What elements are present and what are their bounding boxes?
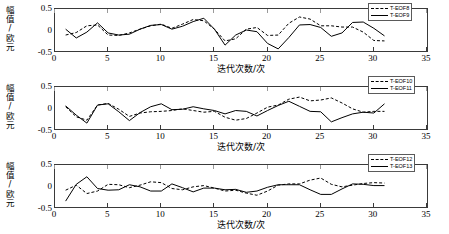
y-axis-label-char: 元 xyxy=(2,43,18,52)
y-tick-label: 0 xyxy=(26,181,52,191)
x-tick-label: 5 xyxy=(95,53,119,63)
legend-item: T-EOF12 xyxy=(371,156,412,163)
x-tick-mark-top xyxy=(426,9,427,13)
y-axis-label-panel-2: 幅 值 / 欧 元 xyxy=(2,84,18,130)
x-tick-mark xyxy=(107,47,108,51)
x-tick-label: 30 xyxy=(361,131,385,141)
x-tick-mark xyxy=(373,47,374,51)
x-tick-mark xyxy=(160,203,161,207)
x-tick-mark-top xyxy=(213,165,214,169)
chart-panel-3: 幅 值 / 欧 元 0.5 0 -0.5 迭代次数/次 T-EOF12 T-EO… xyxy=(0,156,449,234)
legend-item: T-EOF8 xyxy=(371,5,409,12)
series-line-t-eof11 xyxy=(66,101,385,123)
x-tick-label: 5 xyxy=(95,209,119,219)
x-tick-label: 10 xyxy=(148,131,172,141)
legend-panel-1: T-EOF8 T-EOF9 xyxy=(368,3,412,21)
multi-panel-line-chart: 幅 值 / 欧 元 0.5 0 -0.5 迭代次数/次 T-EOF8 T-EOF… xyxy=(0,0,449,234)
x-tick-mark-top xyxy=(107,165,108,169)
legend-item: T-EOF10 xyxy=(371,78,412,85)
x-tick-mark xyxy=(54,203,55,207)
legend-line-dashed-icon xyxy=(371,157,388,163)
x-tick-mark-top xyxy=(320,9,321,13)
x-tick-label: 35 xyxy=(414,131,438,141)
x-axis-label-panel-2: 迭代次数/次 xyxy=(54,140,428,153)
x-tick-label: 20 xyxy=(255,209,279,219)
series-line-t-eof9 xyxy=(66,18,385,49)
x-tick-label: 20 xyxy=(255,53,279,63)
y-tick-label: 0.5 xyxy=(26,81,52,91)
y-tick-labels-panel-2: 0.5 0 -0.5 xyxy=(22,86,52,130)
x-tick-mark xyxy=(426,203,427,207)
x-tick-mark xyxy=(320,125,321,129)
x-tick-label: 0 xyxy=(42,53,66,63)
legend-line-solid-icon xyxy=(371,164,388,170)
x-axis-label-panel-3: 迭代次数/次 xyxy=(54,218,428,231)
x-tick-label: 20 xyxy=(255,131,279,141)
x-tick-mark xyxy=(426,47,427,51)
x-tick-mark xyxy=(320,47,321,51)
x-tick-mark-top xyxy=(320,165,321,169)
x-tick-label: 25 xyxy=(308,209,332,219)
y-tick-label: 0 xyxy=(26,103,52,113)
x-tick-mark xyxy=(267,47,268,51)
x-tick-label: 25 xyxy=(308,53,332,63)
x-tick-mark xyxy=(160,47,161,51)
x-tick-mark xyxy=(213,203,214,207)
x-tick-mark-top xyxy=(54,165,55,169)
x-tick-mark-top xyxy=(267,165,268,169)
x-tick-label: 25 xyxy=(308,131,332,141)
x-tick-label: 35 xyxy=(414,209,438,219)
legend-label: T-EOF12 xyxy=(390,156,412,163)
legend-item: T-EOF11 xyxy=(371,85,412,92)
legend-panel-2: T-EOF10 T-EOF11 xyxy=(368,76,415,94)
x-tick-mark-top xyxy=(426,165,427,169)
x-tick-label: 15 xyxy=(201,131,225,141)
legend-label: T-EOF9 xyxy=(390,12,409,19)
x-tick-mark-top xyxy=(320,87,321,91)
legend-line-solid-icon xyxy=(371,13,388,19)
x-tick-label: 0 xyxy=(42,131,66,141)
x-tick-mark xyxy=(373,125,374,129)
x-tick-mark-top xyxy=(54,87,55,91)
series-group-panel-3 xyxy=(66,177,385,201)
x-tick-mark-top xyxy=(160,165,161,169)
y-axis-label-panel-3: 幅 值 / 欧 元 xyxy=(2,162,18,208)
x-axis-label-panel-1: 迭代次数/次 xyxy=(54,62,428,75)
x-tick-mark xyxy=(267,203,268,207)
legend-item: T-EOF9 xyxy=(371,12,409,19)
x-tick-mark xyxy=(160,125,161,129)
x-tick-mark xyxy=(373,203,374,207)
x-tick-label: 15 xyxy=(201,53,225,63)
x-tick-mark xyxy=(107,203,108,207)
x-tick-mark-top xyxy=(160,87,161,91)
legend-panel-3: T-EOF12 T-EOF13 xyxy=(368,154,415,172)
series-group-panel-1 xyxy=(66,17,385,49)
x-tick-label: 5 xyxy=(95,131,119,141)
legend-label: T-EOF10 xyxy=(390,78,412,85)
series-line-t-eof10 xyxy=(66,97,385,120)
y-axis-label-char: 元 xyxy=(2,199,18,208)
legend-item: T-EOF13 xyxy=(371,163,412,170)
x-tick-mark xyxy=(54,47,55,51)
x-tick-label: 15 xyxy=(201,209,225,219)
x-tick-mark-top xyxy=(160,9,161,13)
x-tick-label: 30 xyxy=(361,209,385,219)
x-tick-mark-top xyxy=(213,9,214,13)
x-tick-mark-top xyxy=(213,87,214,91)
series-line-t-eof13 xyxy=(66,177,385,201)
x-tick-mark-top xyxy=(54,9,55,13)
legend-label: T-EOF8 xyxy=(390,5,409,12)
y-tick-label: 0.5 xyxy=(26,159,52,169)
chart-panel-2: 幅 值 / 欧 元 0.5 0 -0.5 迭代次数/次 T-EOF10 T-EO… xyxy=(0,78,449,156)
x-tick-mark xyxy=(426,125,427,129)
legend-line-solid-icon xyxy=(371,86,388,92)
legend-line-dashed-icon xyxy=(371,6,388,12)
y-tick-labels-panel-3: 0.5 0 -0.5 xyxy=(22,164,52,208)
x-tick-label: 10 xyxy=(148,53,172,63)
x-tick-mark-top xyxy=(426,87,427,91)
x-tick-label: 0 xyxy=(42,209,66,219)
legend-label: T-EOF13 xyxy=(390,163,412,170)
x-tick-mark xyxy=(320,203,321,207)
y-axis-label-panel-1: 幅 值 / 欧 元 xyxy=(2,6,18,52)
y-tick-label: 0 xyxy=(26,25,52,35)
